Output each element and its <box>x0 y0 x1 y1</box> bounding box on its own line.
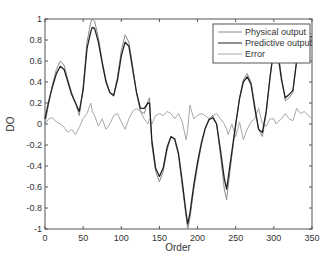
x-tick-label: 250 <box>228 233 243 243</box>
y-tick-label: 0 <box>37 119 42 129</box>
y-tick-label: -0.8 <box>26 203 42 213</box>
y-tick-label: 0.2 <box>29 98 42 108</box>
x-tick-label: 50 <box>78 233 88 243</box>
y-axis-label: DO <box>5 116 16 131</box>
y-tick-label: 0.8 <box>29 35 42 45</box>
legend-label-physical: Physical output <box>245 27 307 37</box>
x-tick-label: 300 <box>266 233 281 243</box>
y-tick-label: -1 <box>34 224 42 234</box>
x-tick-label: 350 <box>304 233 319 243</box>
legend-label-error: Error <box>245 49 265 59</box>
legend-label-predictive: Predictive output <box>245 38 313 48</box>
x-tick-label: 0 <box>42 233 47 243</box>
y-tick-label: 1 <box>37 14 42 24</box>
legend: Physical output Predictive output Error <box>213 24 313 63</box>
x-tick-label: 200 <box>190 233 205 243</box>
line-chart: 050100150200250300350 -1-0.8-0.6-0.4-0.2… <box>0 0 336 264</box>
y-tick-label: -0.2 <box>26 140 42 150</box>
y-tick-label: -0.4 <box>26 161 42 171</box>
x-axis-label: Order <box>165 242 191 253</box>
x-tick-label: 100 <box>114 233 129 243</box>
y-tick-label: 0.6 <box>29 56 42 66</box>
y-tick-label: 0.4 <box>29 77 42 87</box>
y-tick-label: -0.6 <box>26 182 42 192</box>
